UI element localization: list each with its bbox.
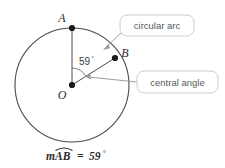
point-b-label: B	[121, 46, 129, 60]
point-o-label: O	[58, 88, 67, 102]
angle-arc-marker	[72, 68, 86, 77]
angle-degree-symbol: °	[92, 55, 95, 61]
point-a-dot	[69, 25, 75, 31]
caption-arc-name: AB	[54, 150, 71, 162]
caption-degree-symbol: °	[103, 149, 106, 157]
caption-equals: =	[77, 150, 84, 162]
geometry-figure: A B O 59 ° circular arc central angle m …	[0, 0, 225, 168]
angle-value-label: 59	[79, 56, 91, 67]
point-o-dot	[69, 82, 75, 88]
callout-label-circular-arc: circular arc	[134, 20, 181, 31]
caption-value: 59	[89, 150, 101, 162]
point-b-dot	[112, 55, 118, 61]
caption-m: m	[46, 150, 55, 162]
callout-label-central-angle: central angle	[150, 77, 204, 88]
point-a-label: A	[57, 11, 66, 25]
leader-line-central-angle	[88, 77, 137, 82]
